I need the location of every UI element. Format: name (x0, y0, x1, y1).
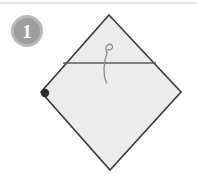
corner-reference-dot (41, 89, 49, 97)
origami-step-figure: 1 (0, 0, 197, 180)
step-badge-label: 1 (22, 22, 32, 41)
step-badge-inner-circle: 1 (14, 18, 40, 44)
paper-diamond (41, 15, 181, 170)
step-number-badge: 1 (11, 15, 43, 47)
